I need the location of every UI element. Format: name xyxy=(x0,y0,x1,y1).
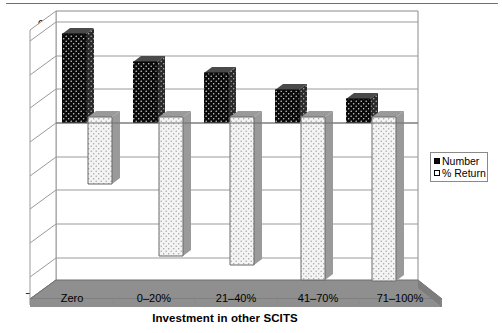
bar-return-0-20 xyxy=(159,111,191,256)
bar-return-21-40 xyxy=(230,111,262,265)
legend-label: Number xyxy=(442,155,479,167)
x-tick-label: 71–100% xyxy=(360,292,440,304)
bar-return-41-70 xyxy=(301,111,333,280)
plot-area xyxy=(0,0,502,333)
x-tick-label: 41–70% xyxy=(278,292,358,304)
bar-number-zero xyxy=(62,28,94,123)
x-tick-label: 0–20% xyxy=(114,292,194,304)
chart-figure: 60 40 20 0 −20 −40 −60 −80 −100 xyxy=(0,0,502,333)
legend-swatch-icon xyxy=(434,158,440,164)
bar-return-71-100 xyxy=(372,111,404,281)
legend-item-return: % Return xyxy=(434,167,485,179)
x-tick-label: 21–40% xyxy=(196,292,276,304)
x-axis-labels: Zero 0–20% 21–40% 41–70% 71–100% xyxy=(0,292,502,308)
x-axis-title: Investment in other SCITS xyxy=(0,312,450,324)
bar-number-0-20 xyxy=(133,56,165,123)
bar-number-21-40 xyxy=(204,67,236,123)
legend-label: % Return xyxy=(442,167,486,179)
legend-item-number: Number xyxy=(434,155,485,167)
plot-side-wall xyxy=(30,11,56,299)
x-tick-label: Zero xyxy=(32,292,112,304)
bar-return-zero xyxy=(88,111,120,184)
chart-legend: Number % Return xyxy=(430,152,488,182)
legend-swatch-icon xyxy=(434,170,440,176)
